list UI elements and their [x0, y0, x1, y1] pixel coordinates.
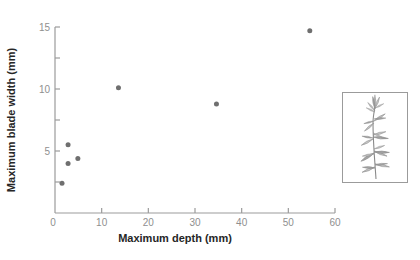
scatter-point [60, 181, 65, 186]
y-tick-label: 5 [44, 146, 50, 157]
scatter-point [66, 161, 71, 166]
x-tick-label: 60 [329, 217, 341, 228]
data-points [60, 28, 313, 186]
plant-sprig-illustration-icon [343, 93, 407, 182]
scatter-point [66, 142, 71, 147]
x-tick-label: 0 [50, 217, 56, 228]
x-tick-label: 30 [189, 217, 201, 228]
x-tick-label: 10 [96, 217, 108, 228]
tick-labels: 510150102030405060 [39, 22, 341, 229]
scatter-point [214, 101, 219, 106]
x-tick-label: 50 [283, 217, 295, 228]
scatter-point [116, 85, 121, 90]
y-tick-label: 10 [39, 84, 51, 95]
y-axis-title: Maximum blade width (mm) [5, 48, 17, 193]
x-axis-title: Maximum depth (mm) [118, 232, 232, 244]
x-tick-label: 40 [236, 217, 248, 228]
axes [55, 27, 335, 213]
scatter-point [307, 28, 312, 33]
figure: 510150102030405060 Maximum depth (mm) Ma… [0, 0, 420, 260]
y-tick-label: 15 [39, 22, 51, 33]
x-tick-label: 20 [143, 217, 155, 228]
plant-inset [342, 92, 408, 183]
axis-ticks [55, 27, 335, 213]
scatter-point [75, 156, 80, 161]
